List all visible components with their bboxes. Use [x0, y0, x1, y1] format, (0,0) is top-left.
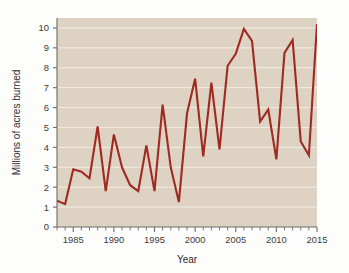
y-tick-label-7: 7 [44, 82, 49, 93]
y-tick-label-1: 1 [44, 202, 49, 213]
y-axis-title: Millions of acres burned [11, 70, 22, 176]
line-chart: 012345678910 198519901995200020052010201… [0, 0, 349, 273]
y-tick-label-6: 6 [44, 102, 49, 113]
y-tick-label-10: 10 [39, 22, 49, 33]
x-tick-label-2005: 2005 [225, 234, 246, 245]
y-tick-label-4: 4 [44, 142, 49, 153]
y-tick-label-0: 0 [44, 221, 49, 232]
x-axis-title: Year [177, 254, 198, 265]
y-tick-label-2: 2 [44, 182, 49, 193]
y-tick-label-5: 5 [44, 122, 49, 133]
x-tick-label-1990: 1990 [103, 234, 124, 245]
x-tick-label-2000: 2000 [185, 234, 206, 245]
x-tick-label-1995: 1995 [144, 234, 165, 245]
y-tick-label-9: 9 [44, 42, 49, 53]
x-tick-label-1985: 1985 [63, 234, 84, 245]
y-tick-label-3: 3 [44, 162, 49, 173]
y-tick-label-8: 8 [44, 62, 49, 73]
chart-figure: 012345678910 198519901995200020052010201… [0, 0, 349, 273]
x-tick-label-2010: 2010 [266, 234, 287, 245]
x-tick-label-2015: 2015 [307, 234, 328, 245]
